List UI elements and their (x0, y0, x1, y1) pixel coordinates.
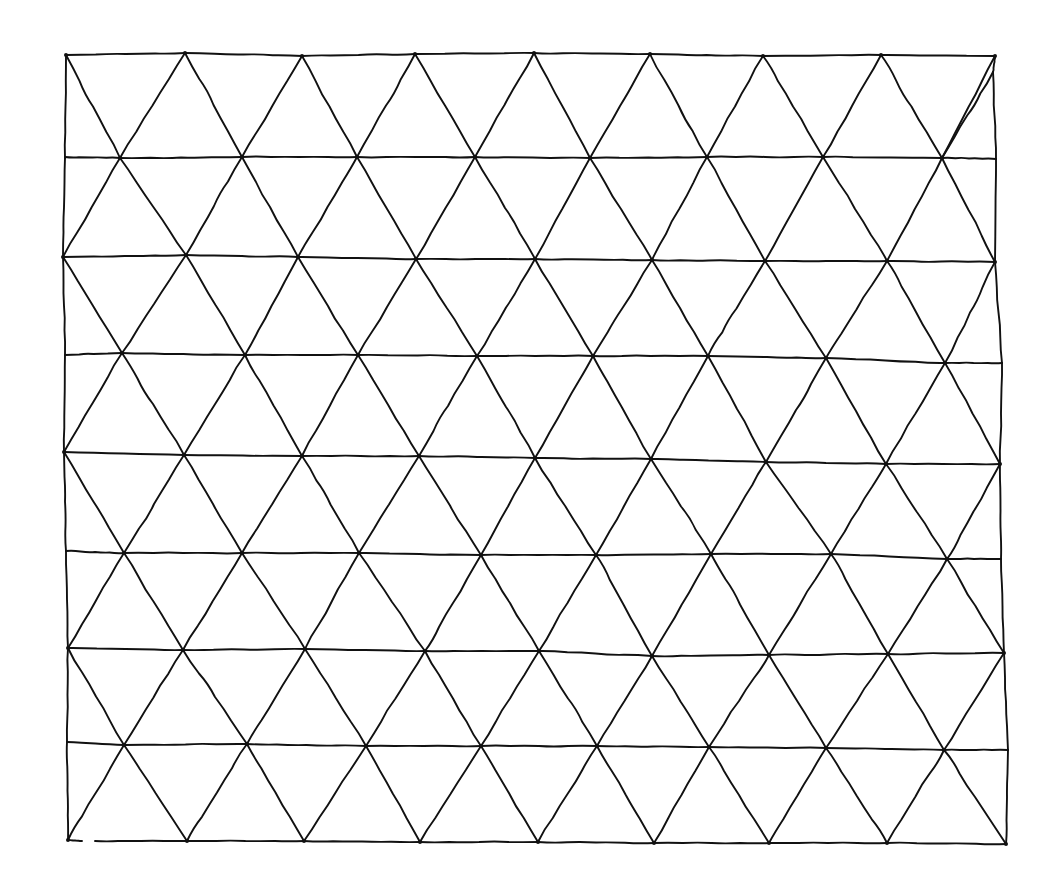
diagonal-line (942, 158, 995, 262)
horizontal-line (242, 157, 357, 158)
vertex-dot (705, 155, 709, 159)
vertex-dot (879, 53, 883, 57)
vertex-dot (356, 353, 360, 357)
vertex-dot (595, 744, 599, 748)
horizontal-line (481, 746, 597, 747)
diagonal-line (481, 651, 539, 746)
vertex-dot (475, 354, 479, 358)
horizontal-line (420, 842, 538, 843)
diagonal-line (186, 157, 242, 255)
vertex-dot (417, 454, 421, 458)
horizontal-line (358, 355, 477, 356)
diagonal-line (769, 554, 831, 655)
diagonal-line (247, 649, 305, 744)
diagonal-line (120, 158, 186, 255)
diagonal-line (826, 261, 887, 358)
diagonal-line (709, 747, 769, 843)
horizontal-line (535, 458, 651, 459)
horizontal-line (596, 554, 711, 555)
vertex-dot (767, 841, 771, 845)
diagonal-line (416, 259, 477, 356)
diagonal-line (186, 255, 245, 355)
horizontal-line (881, 55, 995, 56)
vertex-dot (243, 353, 247, 357)
left-border-line (67, 648, 68, 742)
vertex-dot (706, 354, 710, 358)
horizontal-line (709, 747, 826, 748)
diagonal-line (942, 72, 993, 158)
vertex-dot (829, 552, 833, 556)
vertex-dot (884, 462, 888, 466)
vertex-dot (649, 457, 653, 461)
right-border-line (1006, 750, 1008, 844)
vertex-dot (182, 453, 186, 457)
vertex-dot (300, 54, 304, 58)
vertex-dot (824, 746, 828, 750)
diagonal-line (534, 53, 590, 158)
vertex-dot (824, 356, 828, 360)
vertex-dot (296, 255, 300, 259)
vertex-dot (120, 351, 124, 355)
vertex-dot (764, 460, 768, 464)
horizontal-line (302, 456, 419, 457)
vertex-dot (588, 156, 592, 160)
diagonal-line (711, 462, 766, 554)
horizontal-line (68, 840, 82, 841)
left-border-line (64, 355, 65, 452)
horizontal-line (942, 158, 996, 159)
vertex-dot (533, 257, 537, 261)
diagonal-line (709, 655, 769, 747)
horizontal-line (652, 655, 769, 657)
horizontal-line (711, 554, 831, 555)
horizontal-line (305, 649, 425, 651)
horizontal-line (826, 748, 944, 750)
vertex-dot (414, 257, 418, 261)
right-border-line (993, 72, 996, 159)
diagonal-line (183, 650, 247, 744)
vertex-dot (594, 553, 598, 557)
triangular-grid-drawing (0, 0, 1054, 889)
right-border-line (1000, 464, 1001, 559)
diagonal-line (597, 656, 652, 746)
diagonal-line (593, 356, 651, 459)
diagonal-line (654, 747, 709, 843)
diagonal-line (481, 746, 538, 842)
vertex-dot (418, 840, 422, 844)
diagonal-line (651, 356, 708, 459)
horizontal-line (590, 157, 707, 158)
diagonal-line (242, 553, 305, 649)
horizontal-line (304, 841, 420, 842)
diagonal-line (358, 355, 419, 456)
vertex-dot (355, 155, 359, 159)
right-border-line (995, 262, 1002, 363)
diagonal-line (242, 456, 302, 553)
diagonal-line (652, 656, 709, 747)
diagonal-line (359, 456, 419, 553)
horizontal-line (242, 553, 359, 554)
vertex-dot (942, 748, 946, 752)
diagonal-line (359, 553, 425, 651)
diagonal-line (245, 355, 302, 456)
diagonal-line (888, 559, 947, 654)
left-border-line (64, 452, 66, 551)
diagonal-line (120, 53, 185, 158)
diagonal-line (185, 53, 242, 157)
diagonal-line (535, 259, 593, 356)
diagonal-line (304, 746, 366, 841)
diagonal-line (590, 158, 652, 260)
horizontal-line (652, 260, 765, 261)
diagonal-line (886, 464, 947, 559)
horizontal-line (763, 55, 881, 56)
horizontal-line (887, 843, 1006, 845)
horizontal-line (654, 843, 769, 844)
diagonal-line (769, 655, 826, 748)
vertex-dot (767, 653, 771, 657)
horizontal-line (359, 553, 481, 555)
diagonal-line (763, 56, 823, 157)
diagonal-line (425, 555, 481, 651)
right-border-line (1004, 653, 1008, 750)
vertex-dot (536, 840, 540, 844)
vertex-dot (533, 456, 537, 460)
vertex-dot (591, 354, 595, 358)
diagonal-line (187, 744, 247, 841)
